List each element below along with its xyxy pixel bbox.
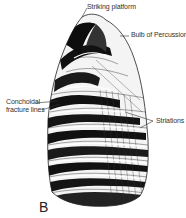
label-striations: Striations <box>156 117 184 125</box>
label-striking-platform: Striking platform <box>87 3 136 11</box>
panel-letter: B <box>39 199 48 215</box>
label-conchoidal-line2: fracture lines <box>6 106 45 113</box>
label-bulb-of-percussion: Bulb of Percussion <box>131 31 186 39</box>
flake-diagram: Striking platform Bulb of Percussion Con… <box>0 0 186 218</box>
label-conchoidal-fracture-lines: Conchoidal fracture lines <box>6 98 50 114</box>
label-conchoidal-line1: Conchoidal <box>6 98 40 105</box>
